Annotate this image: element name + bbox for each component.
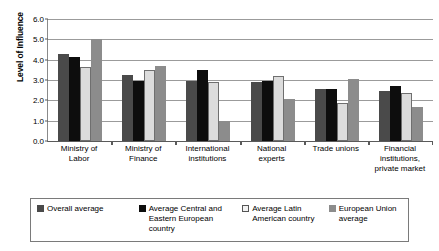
legend-label: European Unionaverage — [339, 204, 397, 224]
bar[interactable] — [401, 93, 412, 141]
x-axis-label: Trade unions — [304, 144, 368, 174]
bar[interactable] — [337, 103, 348, 141]
x-axis-label-line: Finance — [112, 154, 174, 164]
y-axis-title: Level of Influence — [15, 0, 25, 107]
bar[interactable] — [69, 57, 80, 141]
y-tick-label: 6.0 — [33, 15, 44, 24]
legend-label-line: country — [149, 224, 222, 234]
x-axis-label-line: private market — [369, 164, 431, 174]
legend-swatch-icon — [139, 205, 146, 212]
x-axis-label-line: Labor — [48, 154, 110, 164]
bar[interactable] — [273, 76, 284, 141]
bar[interactable] — [284, 99, 295, 141]
bar[interactable] — [251, 82, 262, 141]
x-axis-label-line: institutions, — [369, 154, 431, 164]
bar[interactable] — [315, 89, 326, 141]
bar-chart-figure: Level of Influence 6.05.04.03.02.01.00.0… — [0, 0, 439, 251]
bar[interactable] — [133, 81, 144, 141]
x-axis-label: Ministry ofLabor — [47, 144, 111, 174]
x-axis-label: Financialinstitutions,private market — [368, 144, 432, 174]
bar-group-bars — [379, 19, 423, 141]
legend-swatch-icon — [242, 205, 249, 212]
bar-group-bars — [58, 19, 102, 141]
legend-swatch-icon — [37, 205, 44, 212]
bar[interactable] — [379, 91, 390, 141]
legend-label-line: Overall average — [47, 204, 103, 214]
bar[interactable] — [80, 67, 91, 141]
bar-group — [176, 19, 240, 141]
legend-item[interactable]: Average Central andEastern Europeancount… — [139, 204, 243, 241]
legend-label: Average LatinAmerican country — [252, 204, 314, 224]
bar[interactable] — [91, 39, 102, 141]
x-axis-label-line: National — [241, 144, 303, 154]
legend-item[interactable]: European Unionaverage — [329, 204, 404, 241]
bar-group — [305, 19, 369, 141]
x-axis-label-line: institutions — [176, 154, 238, 164]
bar[interactable] — [155, 66, 166, 141]
bar[interactable] — [197, 70, 208, 141]
x-axis-label-line: Trade unions — [305, 144, 367, 154]
legend-label: Overall average — [47, 204, 103, 214]
y-tick-label: 2.0 — [33, 96, 44, 105]
legend-label-line: European Union — [339, 204, 397, 214]
y-tick-label: 5.0 — [33, 35, 44, 44]
y-tick-label: 0.0 — [33, 137, 44, 146]
legend-label-line: Average Central and — [149, 204, 222, 214]
bar[interactable] — [208, 82, 219, 141]
x-tick-mark — [432, 141, 433, 145]
x-axis-label-line: Financial — [369, 144, 431, 154]
bar[interactable] — [186, 81, 197, 141]
bar[interactable] — [262, 81, 273, 141]
x-axis-label: Ministry ofFinance — [111, 144, 175, 174]
bar-group-bars — [122, 19, 166, 141]
x-axis-label-line: experts — [241, 154, 303, 164]
bar[interactable] — [326, 89, 337, 141]
legend-item[interactable]: Average LatinAmerican country — [242, 204, 329, 241]
bar[interactable] — [348, 79, 359, 141]
legend-label-line: American country — [252, 214, 314, 224]
bar-group — [241, 19, 305, 141]
y-tick-label: 1.0 — [33, 116, 44, 125]
chart-legend: Overall averageAverage Central andEaster… — [30, 198, 409, 242]
bar[interactable] — [122, 75, 133, 141]
bar-group-bars — [186, 19, 230, 141]
legend-item[interactable]: Overall average — [37, 204, 139, 241]
plot-area: 6.05.04.03.02.01.00.0 — [47, 19, 433, 142]
x-axis-label: Nationalexperts — [240, 144, 304, 174]
y-tick-label: 4.0 — [33, 55, 44, 64]
x-axis-label: Internationalinstitutions — [175, 144, 239, 174]
x-axis-label-line: Ministry of — [48, 144, 110, 154]
x-axis-label-line: Ministry of — [112, 144, 174, 154]
x-axis-labels: Ministry ofLaborMinistry ofFinanceIntern… — [47, 144, 432, 174]
y-tick-label: 3.0 — [33, 76, 44, 85]
bar-group — [48, 19, 112, 141]
legend-swatch-icon — [329, 205, 336, 212]
bar[interactable] — [58, 54, 69, 141]
bar[interactable] — [390, 86, 401, 141]
bar[interactable] — [144, 70, 155, 141]
bar-group — [112, 19, 176, 141]
bar-group-bars — [315, 19, 359, 141]
legend-label-line: average — [339, 214, 397, 224]
legend-label-line: Average Latin — [252, 204, 314, 214]
bar[interactable] — [412, 107, 423, 141]
bar-group-bars — [251, 19, 295, 141]
x-axis-label-line: International — [176, 144, 238, 154]
bar-groups — [48, 19, 433, 141]
bar[interactable] — [219, 121, 230, 141]
bar-group — [369, 19, 433, 141]
legend-label-line: Eastern European — [149, 214, 222, 224]
legend-label: Average Central andEastern Europeancount… — [149, 204, 222, 234]
